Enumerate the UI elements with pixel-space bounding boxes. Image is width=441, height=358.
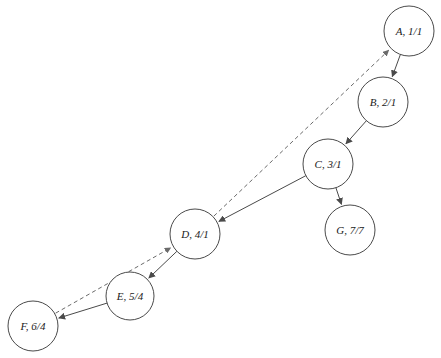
diagram-canvas: A, 1/1B, 2/1C, 3/1D, 4/1E, 5/4F, 6/4G, 7… bbox=[0, 0, 441, 358]
graph-node-a[interactable]: A, 1/1 bbox=[384, 6, 434, 56]
graph-node-b[interactable]: B, 2/1 bbox=[358, 77, 408, 127]
edge-e-f bbox=[59, 303, 107, 318]
node-label-f: F, 6/4 bbox=[20, 320, 46, 332]
edge-d-e bbox=[149, 251, 177, 278]
node-group: A, 1/1B, 2/1C, 3/1D, 4/1E, 5/4F, 6/4G, 7… bbox=[8, 6, 434, 351]
node-label-e: E, 5/4 bbox=[116, 290, 144, 302]
node-label-g: G, 7/7 bbox=[336, 224, 364, 236]
edge-a-b bbox=[392, 54, 400, 76]
node-label-a: A, 1/1 bbox=[395, 25, 422, 37]
node-label-c: C, 3/1 bbox=[315, 158, 342, 170]
solid-edge-group bbox=[59, 54, 401, 318]
graph-svg: A, 1/1B, 2/1C, 3/1D, 4/1E, 5/4F, 6/4G, 7… bbox=[0, 0, 441, 358]
dashed-edge-d-a bbox=[214, 50, 389, 216]
edge-c-g bbox=[336, 188, 342, 205]
graph-node-d[interactable]: D, 4/1 bbox=[170, 209, 220, 259]
node-label-d: D, 4/1 bbox=[180, 228, 209, 240]
graph-node-c[interactable]: C, 3/1 bbox=[303, 139, 353, 189]
edge-c-d bbox=[219, 176, 306, 222]
graph-node-e[interactable]: E, 5/4 bbox=[106, 272, 154, 320]
node-label-b: B, 2/1 bbox=[370, 96, 396, 108]
graph-node-g[interactable]: G, 7/7 bbox=[325, 205, 375, 255]
edge-b-c bbox=[346, 121, 366, 144]
graph-node-f[interactable]: F, 6/4 bbox=[8, 301, 58, 351]
figure-caption bbox=[4, 350, 434, 358]
